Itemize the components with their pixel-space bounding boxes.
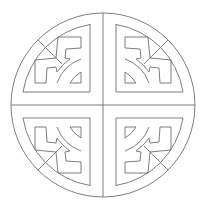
quadrant-bottom-right: [116, 118, 183, 186]
quadrant-bottom-left: [23, 118, 90, 186]
quadrant-top-left: [23, 24, 90, 92]
roundel-figure: Circular fret roundel motif: [0, 0, 206, 211]
quadrant-top-right: [116, 24, 183, 92]
roundel-svg: [0, 0, 206, 211]
